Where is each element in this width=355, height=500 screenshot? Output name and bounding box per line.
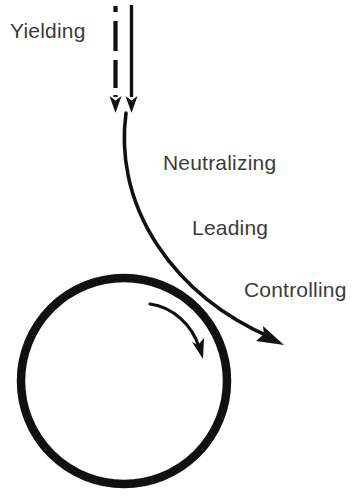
diagram-graphics	[0, 0, 355, 500]
label-yielding: Yielding	[10, 20, 86, 41]
label-leading: Leading	[192, 217, 268, 238]
diagram-canvas: Yielding Neutralizing Leading Controllin…	[0, 0, 355, 500]
solid-down-arrow	[126, 5, 138, 113]
label-controlling: Controlling	[244, 279, 347, 300]
dashed-down-arrow	[110, 6, 122, 113]
large-circle	[21, 278, 227, 484]
dashed-arrow-head	[110, 96, 122, 113]
clockwise-arc-shaft	[150, 304, 199, 347]
solid-arrow-head	[126, 96, 138, 113]
label-neutralizing: Neutralizing	[163, 152, 276, 173]
redirecting-curve-head	[256, 326, 284, 345]
